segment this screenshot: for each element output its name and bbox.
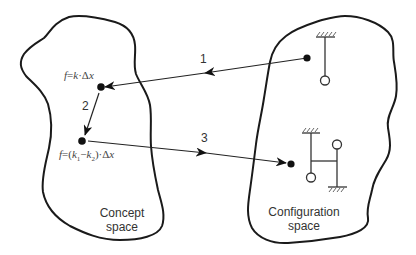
configuration-point-a — [303, 54, 310, 61]
arrow-3-label: 3 — [201, 131, 208, 145]
formula-delta: Δ — [82, 69, 89, 81]
pendulum-icon — [316, 32, 336, 85]
configuration-space-label-line2: space — [256, 219, 352, 233]
concept-space-label: Concept space — [90, 206, 154, 234]
formula-point-b: f=(k1−k2)·Δx — [59, 148, 114, 163]
formula-x: x — [89, 69, 94, 81]
formula-point-a: f=k·Δx — [64, 69, 94, 81]
diagram-svg — [0, 0, 416, 255]
arrow-1-label: 1 — [200, 52, 207, 66]
concept-point-b — [78, 137, 86, 145]
formula-x: x — [109, 148, 114, 160]
diagram-canvas: 1 2 3 f=k·Δx f=(k1−k2)·Δx Concept space … — [0, 0, 416, 255]
configuration-space-label-line1: Configuration — [256, 205, 352, 219]
formula-eq-open: =( — [62, 148, 72, 160]
configuration-space-label: Configuration space — [256, 205, 352, 233]
arrow-2-label: 2 — [82, 99, 89, 113]
concept-point-a — [97, 83, 105, 91]
concept-space-label-line2: space — [90, 220, 154, 234]
configuration-point-b — [287, 160, 294, 167]
concept-space-label-line1: Concept — [90, 206, 154, 220]
coupled-pendulum-icon — [302, 128, 347, 192]
